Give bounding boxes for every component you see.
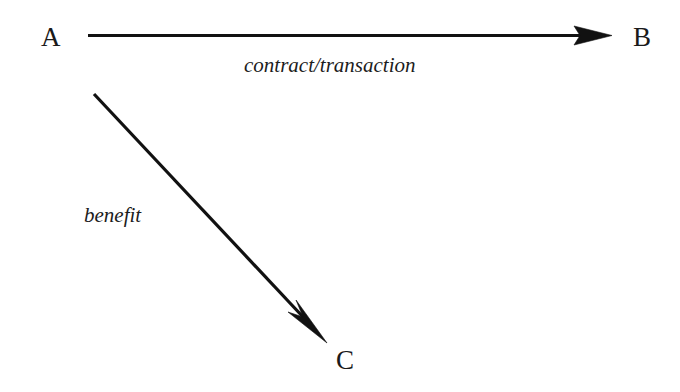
edge-label-contract-transaction: contract/transaction (244, 55, 416, 76)
edge-a-to-b (88, 26, 612, 45)
diagram-canvas-root: A B C contract/transaction benefit (0, 0, 680, 392)
node-label-a: A (41, 24, 61, 51)
node-label-c: C (336, 347, 354, 374)
edge-a-to-b-arrowhead (574, 26, 612, 45)
node-label-b: B (633, 24, 651, 51)
edge-label-benefit: benefit (84, 205, 141, 226)
